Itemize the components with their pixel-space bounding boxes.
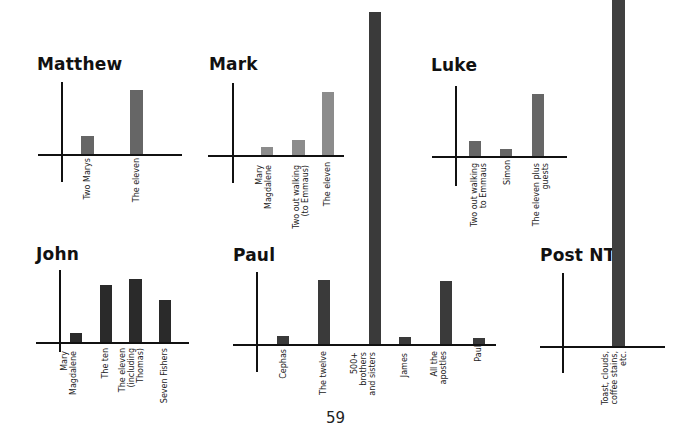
x-axis — [540, 346, 665, 348]
category-label: The ten — [101, 348, 110, 388]
chart-title: Luke — [431, 55, 477, 75]
chart-title: Matthew — [37, 54, 122, 74]
category-label: Mary Magdalene — [255, 165, 273, 215]
bar-the-eleven-plus-guests — [532, 94, 544, 156]
category-label: Simon — [503, 160, 512, 200]
bar-500-brothers-and-sisters — [369, 12, 381, 344]
category-label: Seven Fishers — [160, 348, 169, 413]
category-label: Toast, clouds, coffee stains, etc. — [601, 351, 628, 416]
y-axis — [562, 273, 564, 373]
chart-title: Mark — [209, 54, 258, 74]
chart-john: John Mary Magdalene The ten The eleven (… — [0, 0, 694, 436]
y-axis — [61, 82, 63, 182]
chart-mark: Mark Mary Magdalene Two out walking (to … — [0, 0, 694, 436]
bar-two-marys — [81, 136, 94, 154]
category-label: Two out walking to Emmaus — [470, 163, 488, 238]
bar-the-eleven — [130, 90, 143, 154]
category-label: The eleven (including Thomas) — [118, 348, 145, 400]
category-label: The eleven — [323, 162, 332, 212]
bar-two-out-walking — [292, 140, 305, 155]
category-label: Two out walking (to Emmaus) — [292, 165, 310, 240]
bar-the-eleven — [129, 279, 142, 342]
bar-paul — [473, 338, 485, 344]
chart-title: Paul — [233, 245, 275, 265]
bar-simon — [500, 149, 512, 156]
chart-title: John — [36, 244, 79, 264]
bar-seven-fishers — [159, 300, 171, 342]
category-label: 500+ brothers and sisters — [350, 352, 377, 402]
x-axis — [233, 344, 496, 346]
chart-paul: Paul Cephas The twelve 500+ brothers and… — [0, 0, 694, 436]
category-label: The eleven — [132, 158, 141, 208]
bar-mary-magdalene — [70, 333, 82, 342]
bar-mary-magdalene — [261, 147, 273, 155]
bar-the-eleven — [322, 92, 334, 155]
chart-title: Post NT — [540, 245, 616, 265]
category-label: The twelve — [319, 351, 328, 401]
x-axis — [36, 342, 189, 344]
page-number: 59 — [326, 409, 345, 427]
bar-toast-clouds-coffee-stains — [612, 0, 625, 346]
x-axis — [38, 154, 182, 156]
chart-matthew: Matthew Two Marys The eleven — [0, 0, 694, 436]
bar-cephas — [277, 336, 289, 344]
category-label: James — [400, 353, 409, 383]
x-axis — [432, 156, 567, 158]
bar-the-twelve — [318, 280, 330, 344]
category-label: Cephas — [279, 349, 288, 384]
chart-luke: Luke Two out walking to Emmaus Simon The… — [0, 0, 694, 436]
y-axis — [256, 272, 258, 372]
x-axis — [208, 155, 344, 157]
y-axis — [455, 86, 457, 186]
chart-post-nt: Post NT Toast, clouds, coffee stains, et… — [0, 0, 694, 436]
bar-all-the-apostles — [440, 281, 452, 344]
category-label: Two Marys — [83, 158, 92, 208]
bar-the-ten — [100, 285, 112, 342]
y-axis — [232, 83, 234, 183]
category-label: Mary Magdalene — [60, 351, 78, 401]
bar-james — [399, 337, 411, 344]
bar-two-out-walking — [469, 141, 481, 156]
y-axis — [59, 270, 61, 352]
category-label: Paul — [474, 345, 483, 370]
category-label: The eleven plus guests — [532, 163, 550, 238]
category-label: All the apostles — [430, 351, 448, 391]
